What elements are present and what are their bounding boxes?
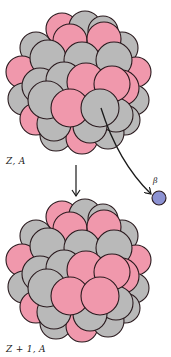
- beta-decay-diagram: Z, A β Z + 1, A: [0, 0, 171, 357]
- beta-particle-label: β: [153, 176, 158, 185]
- diagram-canvas: [0, 0, 171, 357]
- decay-arrow-icon: [72, 165, 80, 196]
- daughter-nucleus: [6, 199, 151, 342]
- proton-sphere: [81, 277, 119, 315]
- beta-particle: [152, 191, 166, 205]
- neutron-sphere: [81, 89, 119, 127]
- parent-nucleus: [6, 11, 151, 154]
- daughter-nucleus-label: Z + 1, A: [6, 344, 46, 354]
- parent-nucleus-label: Z, A: [6, 156, 26, 166]
